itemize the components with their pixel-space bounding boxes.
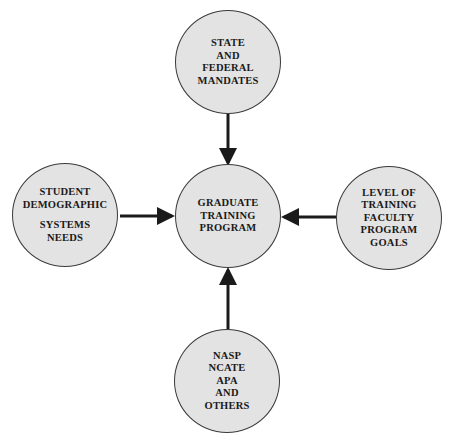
node-label-line: FACULTY: [364, 212, 414, 225]
node-nasp-ncate-apa-others: NASP NCATE APA AND OTHERS: [174, 329, 280, 433]
node-label-line: PROGRAM: [200, 222, 257, 235]
node-label-line: STUDENT: [40, 186, 91, 199]
node-label-line: NCATE: [209, 362, 246, 375]
node-label-line: APA: [216, 375, 237, 388]
node-label-line: GOALS: [370, 237, 408, 250]
node-label-line: GRADUATE: [198, 197, 259, 210]
node-graduate-training-program: GRADUATE TRAINING PROGRAM: [175, 164, 281, 268]
node-label-line: FEDERAL: [202, 62, 254, 75]
node-label-line: OTHERS: [205, 400, 250, 413]
node-label-line: AND: [216, 50, 239, 63]
node-label-line: NASP: [213, 350, 241, 363]
node-state-federal-mandates: STATE AND FEDERAL MANDATES: [175, 10, 281, 114]
node-level-of-training-faculty-goals: LEVEL OF TRAINING FACULTY PROGRAM GOALS: [336, 166, 442, 270]
node-label-line: DEMOGRAPHIC: [23, 199, 107, 212]
node-label-line: LEVEL OF: [362, 187, 416, 200]
node-label-line: MANDATES: [198, 75, 259, 88]
node-label-line: TRAINING: [200, 210, 255, 223]
node-student-demographic-systems-needs: STUDENT DEMOGRAPHIC SYSTEMS NEEDS: [12, 163, 118, 267]
node-label-line: STATE: [211, 37, 245, 50]
node-label-line: PROGRAM: [361, 224, 418, 237]
node-label-line: TRAINING: [361, 199, 416, 212]
node-label-line: NEEDS: [47, 232, 83, 245]
node-label-line: AND: [215, 387, 238, 400]
node-label-line: SYSTEMS: [40, 219, 90, 232]
